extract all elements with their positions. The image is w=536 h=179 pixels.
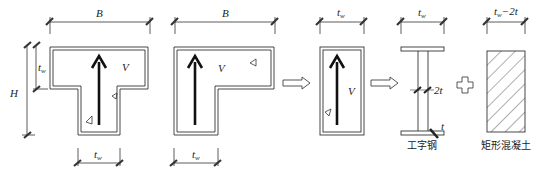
plus-icon — [457, 77, 473, 93]
label-v-t: V — [122, 62, 129, 73]
dimension-b-t — [46, 17, 153, 34]
label-tw-rect: tw — [337, 7, 345, 20]
label-tw-steel: tw — [418, 7, 426, 20]
label-b-t: B — [96, 8, 103, 19]
diagram-canvas — [0, 0, 536, 179]
label-b-l: B — [222, 8, 229, 19]
i-steel-section — [397, 17, 447, 138]
label-tw-leg: tw — [192, 149, 200, 162]
arrow-right-icon — [283, 77, 310, 89]
t-section — [22, 17, 153, 166]
triangle-marker — [325, 109, 331, 116]
dimension-b-l — [171, 17, 278, 34]
label-v-rect: V — [348, 86, 355, 97]
label-2t: 2t — [434, 85, 443, 96]
label-tw-minus-2t: tw−2t — [494, 6, 518, 19]
rect-section — [316, 17, 367, 135]
dimension-h — [22, 42, 35, 138]
triangle-marker — [86, 116, 92, 124]
arrow-right-icon — [371, 77, 398, 89]
triangle-marker — [112, 93, 117, 99]
label-v-l: V — [218, 63, 225, 74]
l-section — [170, 17, 278, 166]
caption-rect-concrete: 矩形混凝土 — [481, 141, 531, 151]
caption-i-steel: 工字钢 — [407, 141, 437, 151]
dimension-tw-minus-2t — [483, 17, 528, 34]
label-tw-web: tw — [94, 149, 102, 162]
rect-concrete-section — [483, 17, 528, 132]
label-t: t — [441, 121, 444, 132]
label-tw-flange: tw — [38, 62, 46, 75]
triangle-marker — [250, 59, 256, 66]
label-h: H — [10, 88, 18, 99]
